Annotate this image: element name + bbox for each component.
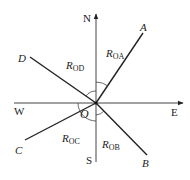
diagram-svg: N S E W O A B C D ROA ROB ROC ROD xyxy=(0,0,190,180)
south-label: S xyxy=(86,154,92,166)
ray-od xyxy=(30,57,96,103)
angle-arc-s-ob xyxy=(96,111,104,115)
point-d-label: D xyxy=(17,52,26,64)
point-b-label: B xyxy=(142,157,149,169)
point-c-label: C xyxy=(15,144,23,156)
segment-od-subscript: OD xyxy=(73,64,85,73)
west-label: W xyxy=(14,105,25,117)
segment-oc-label: ROC xyxy=(61,132,80,146)
compass-bearing-diagram: N S E W O A B C D ROA ROB ROC ROD xyxy=(0,0,190,180)
segment-oa-subscript: OA xyxy=(113,52,125,61)
angle-arc-od-n xyxy=(86,91,96,96)
segment-ob-subscript: OB xyxy=(109,143,120,152)
origin-label: O xyxy=(80,107,89,121)
segment-oa-label: ROA xyxy=(105,47,125,61)
origin-point xyxy=(95,102,98,105)
point-a-label: A xyxy=(139,21,147,33)
ray-oa xyxy=(96,33,143,103)
segment-oc-subscript: OC xyxy=(69,137,80,146)
segment-ob-label: ROB xyxy=(101,138,120,152)
east-label: E xyxy=(171,106,178,118)
segment-od-label: ROD xyxy=(65,59,85,73)
angle-arc-n-oa xyxy=(96,82,108,86)
north-label: N xyxy=(83,12,91,24)
